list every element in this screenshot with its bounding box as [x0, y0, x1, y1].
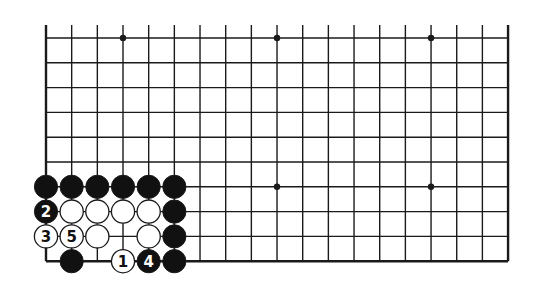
- black-stone-4: 4: [137, 250, 160, 273]
- black-stone: [163, 175, 186, 198]
- black-stone-icon: [163, 250, 186, 273]
- white-stone-icon: [60, 200, 83, 223]
- white-stone: [60, 200, 83, 223]
- star-point-icon: [274, 184, 280, 190]
- black-stone-icon: [163, 200, 186, 223]
- white-stone: [86, 225, 109, 248]
- black-stone-icon: [86, 175, 109, 198]
- white-stone: [86, 200, 109, 223]
- move-number-label: 4: [143, 253, 153, 271]
- go-board-diagram: 23514: [0, 0, 542, 284]
- move-number-label: 2: [41, 203, 51, 221]
- white-stone-icon: [111, 200, 134, 223]
- black-stone: [163, 250, 186, 273]
- black-stone-icon: [34, 175, 57, 198]
- black-stone: [137, 175, 160, 198]
- star-point-icon: [428, 184, 434, 190]
- white-stone-3: 3: [34, 225, 57, 248]
- star-point-icon: [120, 35, 126, 41]
- black-stone-icon: [163, 225, 186, 248]
- black-stone-icon: [137, 175, 160, 198]
- black-stone: [86, 175, 109, 198]
- white-stone: [137, 225, 160, 248]
- black-stone: [60, 175, 83, 198]
- star-point-icon: [428, 35, 434, 41]
- black-stone-2: 2: [34, 200, 57, 223]
- stones-layer: 23514: [34, 175, 186, 273]
- black-stone: [163, 225, 186, 248]
- black-stone-icon: [111, 175, 134, 198]
- black-stone: [163, 200, 186, 223]
- black-stone-icon: [60, 250, 83, 273]
- board-grid: [46, 25, 508, 261]
- black-stone: [34, 175, 57, 198]
- white-stone-5: 5: [60, 225, 83, 248]
- white-stone-1: 1: [111, 250, 134, 273]
- white-stone: [137, 200, 160, 223]
- white-stone: [111, 200, 134, 223]
- white-stone-icon: [86, 200, 109, 223]
- white-stone-icon: [137, 225, 160, 248]
- black-stone-icon: [163, 175, 186, 198]
- black-stone: [111, 175, 134, 198]
- white-stone-icon: [86, 225, 109, 248]
- star-point-icon: [274, 35, 280, 41]
- black-stone: [60, 250, 83, 273]
- black-stone-icon: [60, 175, 83, 198]
- move-number-label: 3: [41, 228, 51, 246]
- move-number-label: 5: [66, 228, 76, 246]
- move-number-label: 1: [118, 253, 128, 271]
- white-stone-icon: [137, 200, 160, 223]
